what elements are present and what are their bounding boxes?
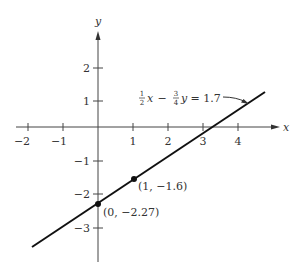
y-tick-label: −2 — [74, 188, 90, 201]
x-tick-label: 4 — [235, 135, 242, 148]
point-one — [131, 176, 137, 182]
point-label-intercept: (0, −2.27) — [103, 206, 159, 219]
y-tick-label: −3 — [74, 222, 90, 235]
y-tick-label: 2 — [83, 62, 90, 75]
x-tick-label: −1 — [51, 135, 67, 148]
y-axis-label: y — [94, 15, 102, 28]
x-tick-label: 3 — [200, 135, 207, 148]
line-graph: −2 −1 1 2 3 4 2 1 −1 −2 −3 x y (0, −2.27… — [0, 0, 302, 275]
y-tick-label: 1 — [83, 95, 90, 108]
point-intercept — [95, 201, 101, 207]
svg-text:1: 1 — [140, 90, 144, 98]
equation-label: 1 2 x − 3 4 y = 1.7 — [139, 90, 221, 107]
svg-text:4: 4 — [174, 99, 179, 107]
x-tick-label: −2 — [14, 135, 30, 148]
y-axis-arrow-icon — [96, 31, 101, 40]
svg-text:= 1.7: = 1.7 — [187, 92, 221, 105]
point-label-one: (1, −1.6) — [138, 180, 187, 193]
x-tick-label: 1 — [130, 135, 137, 148]
x-axis-label: x — [283, 121, 290, 134]
equation-line — [32, 92, 265, 247]
x-tick-label: 2 — [165, 135, 172, 148]
svg-text:3: 3 — [174, 90, 178, 98]
x-axis-arrow-icon — [271, 125, 280, 130]
svg-text:2: 2 — [140, 99, 144, 107]
y-tick-label: −1 — [74, 155, 90, 168]
svg-text:−: − — [154, 92, 170, 105]
svg-text:x: x — [147, 92, 154, 105]
annotation-arrowhead-icon — [241, 99, 249, 104]
